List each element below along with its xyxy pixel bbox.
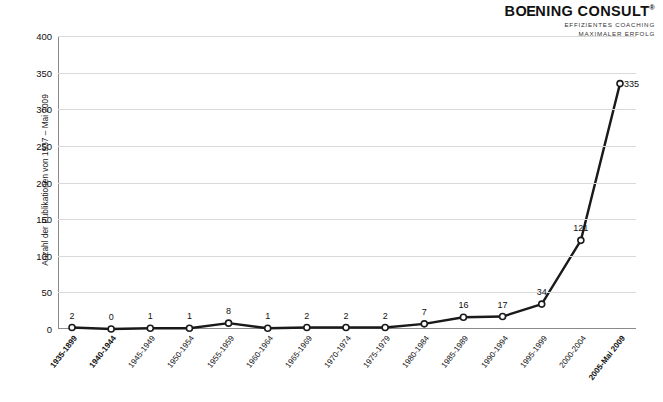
data-point-label: 7 xyxy=(422,307,427,317)
y-axis-tick-label: 300 xyxy=(36,104,52,115)
x-axis-tick-label: 1990-1994 xyxy=(479,334,510,370)
x-axis-tick-label: 1950-1954 xyxy=(166,334,197,370)
x-axis-tick-label: 1960-1964 xyxy=(244,334,275,370)
x-axis-tick-label: 1975-1979 xyxy=(362,334,393,370)
data-point-label: 1 xyxy=(187,311,192,321)
data-point-label: 335 xyxy=(624,79,639,89)
gridline xyxy=(58,36,636,37)
gridline xyxy=(58,292,636,293)
x-axis-tick-label: 1965-1969 xyxy=(283,334,314,370)
data-point-label: 2 xyxy=(69,311,74,321)
data-point-label: 16 xyxy=(458,300,468,310)
gridline xyxy=(58,256,636,257)
y-axis-tick-label: 100 xyxy=(36,250,52,261)
y-axis-tick-label: 200 xyxy=(36,177,52,188)
y-axis-tick-label: 250 xyxy=(36,140,52,151)
y-axis-tick-label: 0 xyxy=(47,324,52,335)
data-point-label: 0 xyxy=(109,312,114,322)
x-axis-tick-label: 1945-1949 xyxy=(127,334,158,370)
x-axis-tick-label: 1995-1999 xyxy=(518,334,549,370)
data-point-label: 1 xyxy=(265,311,270,321)
brand-tagline-1: EFFIZIENTES COACHING xyxy=(505,22,655,28)
x-axis-tick-label: 1935-1899 xyxy=(48,334,79,370)
x-axis-tick-label: 1980-1984 xyxy=(401,334,432,370)
data-point-label: 8 xyxy=(226,306,231,316)
data-point-label: 2 xyxy=(383,311,388,321)
brand-logo-rest: NING CONSULT xyxy=(535,3,649,19)
y-axis-tick-label: 400 xyxy=(36,31,52,42)
x-axis-tick-label: 1955-1959 xyxy=(205,334,236,370)
y-axis-tick-label: 350 xyxy=(36,67,52,78)
data-point-label: 2 xyxy=(343,311,348,321)
brand-logo-name: BOENING CONSULT® xyxy=(505,4,655,19)
data-point-label: 121 xyxy=(573,223,588,233)
gridline xyxy=(58,73,636,74)
data-point-label: 2 xyxy=(304,311,309,321)
data-point-label: 1 xyxy=(148,311,153,321)
gridline xyxy=(58,183,636,184)
brand-logo-oe: OE xyxy=(515,3,535,19)
x-axis-tick-label: 2000-2004 xyxy=(557,334,588,370)
gridline xyxy=(58,219,636,220)
brand-logo-b: B xyxy=(505,3,516,19)
gridline xyxy=(58,146,636,147)
x-axis-tick-label: 1985-1989 xyxy=(440,334,471,370)
x-axis-tick-label: 1940-1944 xyxy=(88,334,119,370)
gridline xyxy=(58,109,636,110)
brand-logo: BOENING CONSULT® EFFIZIENTES COACHING MA… xyxy=(505,4,655,37)
data-point-label: 34 xyxy=(537,287,547,297)
y-axis-tick-label: 150 xyxy=(36,214,52,225)
x-axis-tick-label: 1970-1974 xyxy=(322,334,353,370)
brand-logo-trademark: ® xyxy=(649,4,655,11)
chart-container: BOENING CONSULT® EFFIZIENTES COACHING MA… xyxy=(0,0,663,402)
y-axis-tick-label: 50 xyxy=(41,287,52,298)
data-point-label: 17 xyxy=(498,300,508,310)
plot-area: 0501001502002503003504001935-18991940-19… xyxy=(58,36,636,329)
x-axis-tick-label: 2005-Mai 2009 xyxy=(587,334,627,382)
